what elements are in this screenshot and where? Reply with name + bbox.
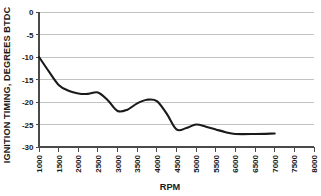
x-tick-label: 7000 <box>271 154 280 172</box>
x-tick-label: 1000 <box>35 154 44 172</box>
x-tick-labels: 1000150020002500300035004000450050005500… <box>35 154 319 172</box>
y-tick-label: -10 <box>22 53 34 62</box>
x-tick-label: 3500 <box>133 154 142 172</box>
x-tick-label: 8000 <box>310 154 319 172</box>
ignition-timing-chart: 0-5-10-15-20-25-30 100015002000250030003… <box>0 0 321 196</box>
gridlines <box>39 12 314 147</box>
chart-plot-area: 0-5-10-15-20-25-30 100015002000250030003… <box>0 0 321 196</box>
y-axis <box>36 12 40 147</box>
y-tick-label: -25 <box>22 121 34 130</box>
x-axis-title: RPM <box>160 182 181 192</box>
x-tick-label: 2000 <box>74 154 83 172</box>
y-tick-label: -20 <box>22 98 34 107</box>
x-tick-label: 6500 <box>251 154 260 172</box>
data-series <box>39 57 275 134</box>
y-tick-label: 0 <box>29 8 34 17</box>
x-axis <box>39 147 314 152</box>
x-tick-label: 3000 <box>114 154 123 172</box>
y-axis-title: IGNITION TIMING, DEGREES BTDC <box>2 6 12 163</box>
x-tick-label: 1500 <box>55 154 64 172</box>
y-tick-label: -15 <box>22 76 34 85</box>
y-tick-label: -5 <box>26 31 34 40</box>
x-tick-label: 6000 <box>231 154 240 172</box>
x-tick-label: 2500 <box>94 154 103 172</box>
x-tick-label: 7500 <box>290 154 299 172</box>
x-tick-label: 4000 <box>153 154 162 172</box>
x-tick-label: 4500 <box>173 154 182 172</box>
x-tick-label: 5000 <box>192 154 201 172</box>
y-tick-labels: 0-5-10-15-20-25-30 <box>22 8 34 152</box>
y-tick-label: -30 <box>22 143 34 152</box>
series-line <box>39 57 275 134</box>
x-tick-label: 5500 <box>212 154 221 172</box>
